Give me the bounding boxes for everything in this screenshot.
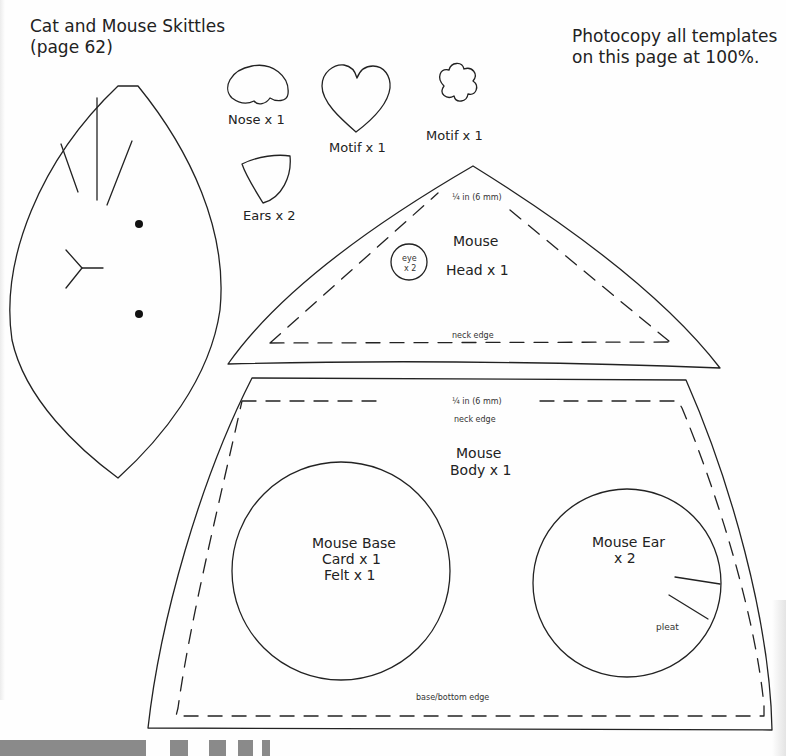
heart-motif-template [322,65,390,132]
mouse-body-count: Body x 1 [450,462,511,478]
mouse-head-count: Head x 1 [446,262,509,278]
whisker-left [61,144,78,192]
cat-face-outline [10,86,221,478]
templates-artwork: Nose x 1 Motif x 1 Motif x 1 Ears x 2 ¼ … [0,0,786,756]
mouse-ear-title: Mouse Ear [592,534,665,550]
pleat-line-top [675,577,720,584]
nose-template [228,65,288,104]
footer-bar-4 [238,740,253,756]
mouse-head-seam-allowance: ¼ in (6 mm) [452,193,502,202]
whisker-right [107,141,132,205]
mouse-base-felt-count: Felt x 1 [324,567,375,583]
cat-eye-dot-top [135,220,143,228]
footer-bar-2 [170,740,188,756]
mouse-body-seam-allowance: ¼ in (6 mm) [452,397,502,406]
mouse-ear-count: x 2 [614,550,636,566]
mouse-base-card-count: Card x 1 [322,551,381,567]
cat-eye-dot-bottom [135,310,143,318]
cat-nose-lines [66,250,82,288]
mouse-eye-label: eye [402,254,417,263]
mouse-base-title: Mouse Base [312,535,396,551]
cat-face-template [10,86,221,478]
mouse-head-title: Mouse [453,233,498,249]
mouse-body-outline [148,378,772,730]
mouse-body-neck-edge-label: neck edge [454,415,496,424]
pleat-label: pleat [656,622,679,632]
footer-decoration [0,740,300,756]
footer-bar-5 [262,740,270,756]
mouse-body-title: Mouse [456,445,501,461]
mouse-eye-count: x 2 [404,264,416,273]
footer-bar-1 [0,740,146,756]
footer-bar-3 [209,740,226,756]
template-page: Cat and Mouse Skittles (page 62) Photoco… [0,0,786,756]
ears-label: Ears x 2 [243,208,296,223]
flower-motif-label: Motif x 1 [426,128,483,143]
heart-motif-label: Motif x 1 [329,140,386,155]
mouse-head-neck-edge-label: neck edge [452,331,494,340]
mouse-body-bottom-edge-label: base/bottom edge [416,693,489,702]
mouse-ear-circle [533,489,721,677]
pleat-line-bottom [669,595,708,619]
flower-motif-template [440,63,477,101]
nose-label: Nose x 1 [228,112,285,127]
ears-template [242,155,290,203]
